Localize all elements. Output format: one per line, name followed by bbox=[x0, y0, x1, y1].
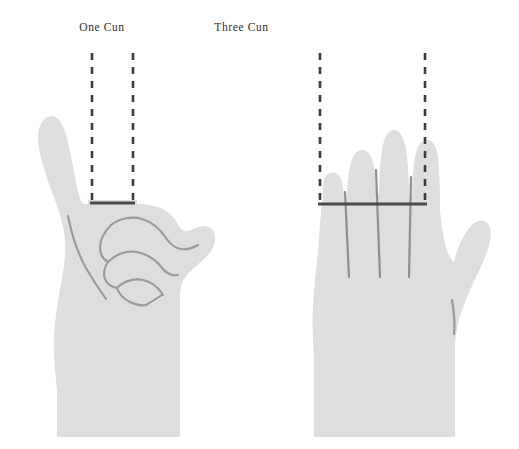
panel-three-cun: Three Cun bbox=[260, 0, 519, 449]
panel-one-cun: One Cun bbox=[0, 0, 260, 449]
divider-middle-index bbox=[409, 177, 411, 277]
divider-pinky-ring bbox=[345, 192, 349, 277]
fist-hand-shape bbox=[38, 116, 215, 437]
fist-crease-lines bbox=[68, 216, 198, 305]
one-cun-measure-guides bbox=[90, 53, 135, 203]
palm-hand-shape bbox=[313, 130, 491, 437]
three-cun-measure-guides bbox=[318, 53, 427, 204]
divider-ring-middle bbox=[376, 170, 380, 277]
thumb-crease-line bbox=[452, 300, 454, 334]
finger-divider-lines bbox=[345, 170, 454, 334]
panel-title-three-cun: Three Cun bbox=[112, 20, 371, 34]
cun-measurement-figure: One Cun bbox=[0, 0, 519, 449]
